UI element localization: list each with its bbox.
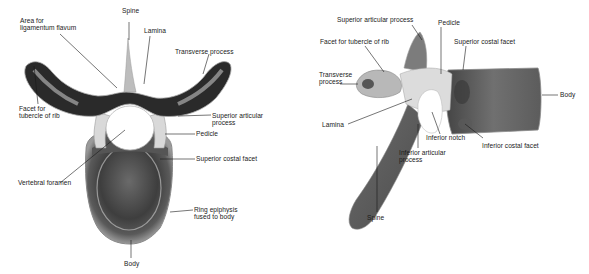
vertebra-figure: Spine Area for ligamentum flavum Lamina … (0, 0, 589, 274)
label-superior-pedicle: Pedicle (196, 130, 218, 137)
label-lateral-inferior-articular-process: Inferior articular process (399, 149, 446, 164)
label-lateral-spine: Spine (367, 214, 384, 221)
label-superior-lamina: Lamina (144, 27, 166, 34)
label-superior-transverse-process: Transverse process (175, 48, 234, 55)
label-superior-superior-articular-process: Superior articular process (212, 112, 263, 127)
label-superior-facet-tubercle-rib: Facet for tubercle of rib (19, 105, 60, 120)
label-lateral-inferior-notch: Inferior notch (426, 134, 465, 141)
lateral-view-bone (349, 32, 541, 229)
label-lateral-superior-articular-process: Superior articular process (337, 16, 413, 23)
label-superior-body: Body (124, 260, 139, 267)
label-superior-vertebral-foramen: Vertebral foramen (18, 179, 71, 186)
label-lateral-inferior-costal-facet: Inferior costal facet (482, 142, 539, 149)
label-lateral-superior-costal-facet: Superior costal facet (454, 38, 515, 45)
label-superior-ring-epiphysis: Ring epiphysis fused to body (194, 206, 238, 221)
label-lateral-transverse-process: Transverse process (319, 71, 352, 86)
label-lateral-facet-tubercle-rib: Facet for tubercle of rib (320, 38, 389, 45)
label-superior-area-ligamentum-flavum: Area for ligamentum flavum (20, 17, 76, 32)
label-superior-spine: Spine (122, 7, 139, 14)
label-superior-superior-costal-facet: Superior costal facet (196, 155, 257, 162)
label-lateral-pedicle: Pedicle (438, 19, 460, 26)
label-lateral-lamina: Lamina (322, 121, 344, 128)
label-lateral-body: Body (560, 91, 575, 98)
